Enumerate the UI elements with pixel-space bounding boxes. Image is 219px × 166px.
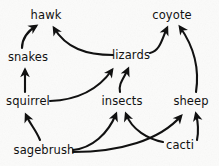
node-hawk: hawk: [31, 9, 62, 22]
node-squirrel: squirrel: [6, 95, 50, 108]
edge-cacti-to-insects: [126, 114, 163, 142]
edge-sagebrush-to-sheep: [73, 116, 181, 152]
food-web-diagram: hawk coyote snakes lizards squirrel inse…: [0, 0, 219, 166]
edge-lizards-to-hawk: [54, 28, 113, 55]
edge-lizards-to-coyote: [150, 28, 167, 53]
edge-sagebrush-to-insects: [73, 114, 116, 150]
edge-snakes-to-hawk: [22, 26, 36, 48]
edge-cacti-to-sheep: [196, 114, 198, 140]
node-sheep: sheep: [173, 95, 208, 108]
edge-sagebrush-to-squirrel: [26, 115, 40, 140]
edge-sheep-to-coyote: [180, 27, 197, 92]
node-cacti: cacti: [166, 139, 194, 152]
node-lizards: lizards: [112, 49, 150, 62]
node-snakes: snakes: [8, 51, 48, 64]
edge-insects-to-lizards: [120, 69, 128, 92]
node-sagebrush: sagebrush: [14, 144, 75, 157]
node-insects: insects: [101, 95, 142, 108]
node-coyote: coyote: [152, 9, 191, 22]
